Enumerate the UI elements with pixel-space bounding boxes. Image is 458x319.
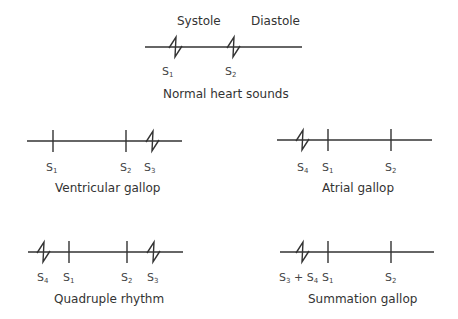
sound-label-s1: S1 — [162, 66, 173, 79]
sound-subscript: 2 — [127, 167, 131, 175]
sound-label-s2: S2 — [120, 162, 131, 175]
sound-subscript: 1 — [329, 167, 333, 175]
sound-subscript: 3 — [286, 277, 290, 285]
sound-subscript: 3 — [154, 277, 158, 285]
phase-label-systole: Systole — [177, 15, 221, 27]
sound-letter: S — [322, 271, 329, 284]
sound-letter: S — [121, 271, 128, 284]
sound-subscript: 2 — [392, 167, 396, 175]
phase-label-diastole: Diastole — [251, 15, 300, 27]
sound-subscript: 2 — [392, 277, 396, 285]
sound-label-s2: S2 — [385, 272, 396, 285]
sound-label-s3: S3 — [144, 162, 155, 175]
sound-label-s4: S4 — [297, 162, 308, 175]
sound-label-s2: S2 — [225, 66, 236, 79]
sound-subscript: 3 — [151, 167, 155, 175]
sound-subscript: 4 — [314, 277, 318, 285]
sound-letter: S — [385, 271, 392, 284]
sound-label-s3: S3 — [147, 272, 158, 285]
sound-subscript: 2 — [128, 277, 132, 285]
sound-subscript: 1 — [53, 167, 57, 175]
sound-letter: S — [307, 271, 314, 284]
sound-letter: S — [279, 271, 286, 284]
panel-title-normal: Normal heart sounds — [163, 88, 289, 100]
sound-letter: S — [37, 271, 44, 284]
sound-letter: S — [225, 65, 232, 78]
panel-title-quadruple: Quadruple rhythm — [54, 293, 164, 305]
sound-subscript: 1 — [329, 277, 333, 285]
sound-subscript: 1 — [169, 71, 173, 79]
plus-sign: + — [294, 271, 303, 284]
sound-subscript: 2 — [232, 71, 236, 79]
sound-label-s4: S4 — [37, 272, 48, 285]
panel-title-summation: Summation gallop — [308, 293, 417, 305]
sound-label-s3-plus-s4: S3 + S4 — [279, 272, 318, 285]
sound-letter: S — [322, 161, 329, 174]
panel-title-atrial: Atrial gallop — [322, 182, 394, 194]
sound-letter: S — [120, 161, 127, 174]
sound-label-s2: S2 — [121, 272, 132, 285]
sound-letter: S — [147, 271, 154, 284]
sound-letter: S — [144, 161, 151, 174]
sound-subscript: 4 — [44, 277, 48, 285]
sound-label-s2: S2 — [385, 162, 396, 175]
sound-letter: S — [385, 161, 392, 174]
sound-letter: S — [162, 65, 169, 78]
sound-letter: S — [297, 161, 304, 174]
sound-label-s1: S1 — [322, 272, 333, 285]
sound-label-s1: S1 — [46, 162, 57, 175]
panel-title-ventricular: Ventricular gallop — [55, 182, 160, 194]
sound-letter: S — [46, 161, 53, 174]
sound-subscript: 4 — [304, 167, 308, 175]
sound-label-s1: S1 — [63, 272, 74, 285]
sound-subscript: 1 — [70, 277, 74, 285]
sound-label-s1: S1 — [322, 162, 333, 175]
sound-letter: S — [63, 271, 70, 284]
